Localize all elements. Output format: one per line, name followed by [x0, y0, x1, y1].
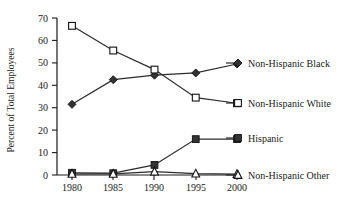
y-tick-label-50: 50 [38, 57, 48, 68]
legend-item-non-hispanic-black: Non-Hispanic Black [226, 58, 330, 69]
y-tick-label-40: 40 [38, 80, 48, 91]
x-tick-label-1980: 1980 [62, 182, 82, 193]
data-point [192, 94, 199, 101]
y-tick-label-60: 60 [38, 35, 48, 46]
legend-marker-open-square [235, 100, 242, 107]
data-point [68, 100, 76, 108]
data-point [192, 69, 200, 77]
x-tick-label-1985: 1985 [103, 182, 123, 193]
legend-label: Hispanic [248, 133, 284, 144]
legend-label: Non-Hispanic White [248, 98, 331, 109]
legend-label: Non-Hispanic Black [248, 58, 330, 69]
y-tick-label-30: 30 [38, 102, 48, 113]
y-tick-label-20: 20 [38, 125, 48, 136]
legend-item-non-hispanic-other: Non-Hispanic Other [226, 170, 330, 181]
data-point [192, 136, 199, 143]
x-tick-label-1995: 1995 [186, 182, 206, 193]
series-line [72, 26, 237, 103]
legend-marker-filled-square [235, 135, 242, 142]
y-tick-label-10: 10 [38, 147, 48, 158]
x-tick-label-1990: 1990 [144, 182, 164, 193]
data-point [110, 47, 117, 54]
x-axis: 1980 1985 1990 1995 2000 [57, 175, 247, 193]
x-tick-label-2000: 2000 [227, 182, 247, 193]
data-point [151, 66, 158, 73]
series-layer [68, 22, 241, 177]
line-chart: Percent of Total Employees 70 60 50 40 3… [0, 0, 349, 209]
y-axis: 70 60 50 40 30 20 10 0 [38, 13, 57, 181]
chart-legend: Non-Hispanic BlackNon-Hispanic WhiteHisp… [226, 58, 331, 181]
legend-label: Non-Hispanic Other [248, 170, 330, 181]
y-axis-title: Percent of Total Employees [6, 47, 16, 152]
data-point [109, 76, 117, 84]
legend-item-non-hispanic-white: Non-Hispanic White [226, 98, 331, 109]
y-tick-label-0: 0 [43, 170, 48, 181]
series-non-hispanic-white [69, 22, 241, 106]
chart-container: Percent of Total Employees 70 60 50 40 3… [0, 0, 349, 209]
y-tick-label-70: 70 [38, 13, 48, 24]
data-point [69, 22, 76, 29]
